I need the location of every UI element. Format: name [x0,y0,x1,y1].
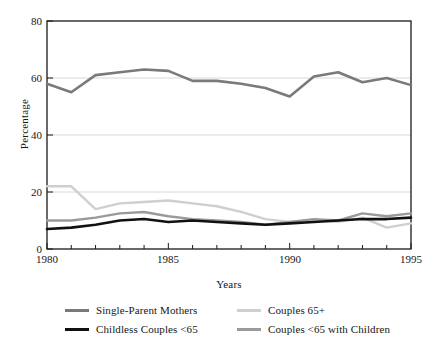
gridlines [47,78,411,192]
line-plot-canvas [0,0,423,275]
legend-item-couples-under-65-with-children: Couples <65 with Children [237,321,390,337]
y-axis-tick-marks [47,21,53,249]
legend-item-single-parent-mothers: Single-Parent Mothers [65,302,197,318]
x-axis-tick-marks [47,243,411,249]
legend-swatch-line-icon [237,328,261,331]
legend-item-childless-couples-under-65: Childless Couples <65 [65,321,198,337]
legend-label: Childless Couples <65 [96,323,198,335]
chart-legend: Single-Parent Mothers Childless Couples … [0,300,423,340]
legend-label: Couples 65+ [268,304,325,316]
legend-swatch-line-icon [237,309,261,312]
chart-figure: Percentage 80 60 40 20 0 1980 1985 1990 … [0,0,423,340]
data-series-layer [47,69,411,229]
legend-swatch-line-icon [65,309,89,312]
legend-label: Couples <65 with Children [268,323,390,335]
x-axis-title: Years [47,278,411,290]
series-line-childless-couples-65 [47,218,411,229]
legend-item-couples-65-plus: Couples 65+ [237,302,325,318]
series-line-single-parent-mothers [47,69,411,96]
legend-label: Single-Parent Mothers [96,304,197,316]
legend-swatch-line-icon [65,328,89,331]
